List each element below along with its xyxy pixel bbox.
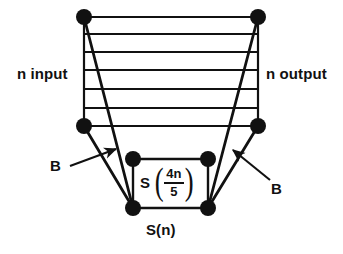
node-inner-top-left [125, 151, 141, 167]
diagram-canvas: n input n output B B S(n) S ( 4n 5 ) [0, 0, 343, 254]
formula-denominator: 5 [168, 185, 179, 199]
label-n-input: n input [17, 66, 68, 81]
diagonal-midright-to-innerbottomright [208, 126, 258, 208]
band-lines-group [84, 17, 258, 126]
label-n-output: n output [266, 66, 327, 81]
diagram-svg [0, 0, 343, 254]
formula-left-paren: ( [155, 167, 164, 197]
label-s-of-n: S(n) [146, 222, 176, 237]
diagonal-midleft-to-innerbottomleft [84, 126, 133, 208]
node-mid-left [76, 118, 92, 134]
formula-function-name: S [140, 174, 150, 191]
diagonal-topleft-to-innerbottomleft [84, 17, 133, 208]
formula-numerator: 4n [164, 167, 183, 181]
diagonal-topright-to-innerbottomright [208, 17, 258, 208]
node-top-left [76, 9, 92, 25]
formula-s-of-4n-over-5: S ( 4n 5 ) [140, 167, 195, 198]
node-mid-right [250, 118, 266, 134]
node-inner-bottom-right [200, 200, 216, 216]
formula-right-paren: ) [184, 167, 193, 197]
node-top-right [250, 9, 266, 25]
formula-fraction: 4n 5 [164, 167, 183, 198]
label-b-right: B [271, 181, 282, 196]
arrow-b-right [233, 150, 270, 180]
arrow-b-left [70, 149, 116, 166]
node-inner-top-right [200, 151, 216, 167]
node-inner-bottom-left [125, 200, 141, 216]
label-b-left: B [50, 158, 61, 173]
